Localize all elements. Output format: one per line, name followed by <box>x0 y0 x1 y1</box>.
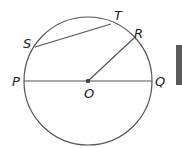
label-t: T <box>114 8 123 23</box>
chord-st <box>35 24 111 47</box>
edge-bar <box>176 45 182 85</box>
label-r: R <box>134 26 143 41</box>
center-point <box>86 79 90 83</box>
label-q: Q <box>155 74 165 89</box>
radius-or <box>88 38 134 81</box>
diagram-canvas: P Q O R S T <box>0 0 182 148</box>
label-s: S <box>23 36 31 51</box>
circle-diagram: P Q O R S T <box>0 0 182 148</box>
label-o: O <box>84 86 94 101</box>
label-p: P <box>12 74 20 89</box>
